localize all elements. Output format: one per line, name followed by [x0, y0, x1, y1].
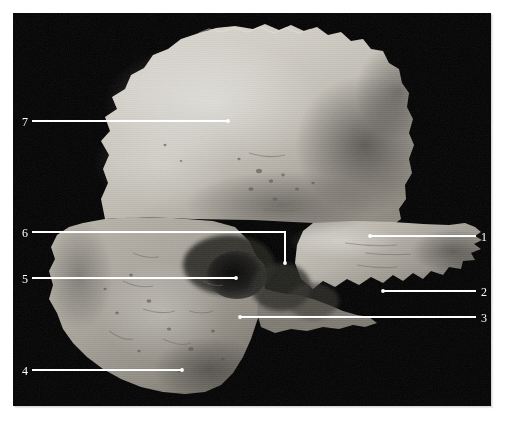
callout-1[interactable]: 1 [481, 231, 487, 243]
callout-2[interactable]: 2 [481, 286, 487, 298]
shadow-styloid-region [287, 283, 339, 319]
temporal-bone-specimen [13, 13, 491, 406]
figure-root: 1234567 [0, 0, 509, 424]
photograph-plate [13, 13, 491, 406]
callout-3[interactable]: 3 [481, 312, 487, 324]
callout-4[interactable]: 4 [22, 365, 28, 377]
callout-6[interactable]: 6 [22, 227, 28, 239]
shadow-mastoid-anterior [45, 219, 113, 331]
callout-5[interactable]: 5 [22, 273, 28, 285]
shadow-squama-edge [355, 43, 443, 139]
photograph-frame [13, 13, 491, 406]
highlight-zygoma-root [287, 223, 399, 259]
shadow-mastoid-tip [153, 337, 265, 401]
callout-7[interactable]: 7 [22, 116, 28, 128]
